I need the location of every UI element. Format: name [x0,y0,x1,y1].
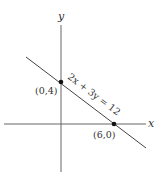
point-label-y-intercept: (0,4) [35,85,58,96]
x-axis-label: x [148,117,155,130]
point-label-x-intercept: (6,0) [93,129,116,140]
equation-line [26,57,146,148]
coordinate-diagram: y x (0,4) (6,0) 2x + 3y = 12 [0,0,166,185]
point-y-intercept [59,80,64,85]
y-axis-label: y [57,10,65,23]
point-x-intercept [112,122,117,127]
diagram-canvas: y x (0,4) (6,0) 2x + 3y = 12 [0,0,166,185]
